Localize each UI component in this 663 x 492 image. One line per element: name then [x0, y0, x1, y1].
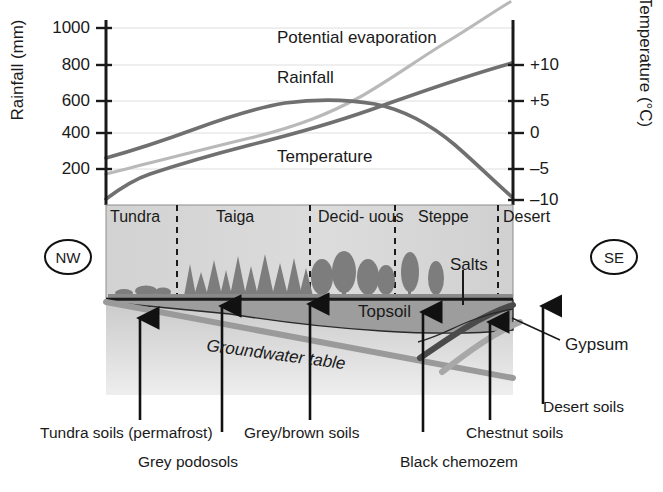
soil-label-chemozem: Black chemozem — [400, 453, 518, 471]
left-tick-600: 600 — [28, 91, 90, 111]
soil-label-chestnut: Chestnut soils — [466, 424, 563, 442]
left-tick-200: 200 — [28, 159, 90, 179]
rainfall-curve-label: Rainfall — [277, 68, 334, 88]
right-axis-title: Temperature (°C) — [635, 0, 655, 147]
left-axis-title: Rainfall (mm) — [8, 0, 28, 150]
right-tick-plus5: +5 — [530, 91, 549, 111]
right-tick-minus10: –10 — [530, 190, 558, 210]
salts-label: Salts — [450, 256, 488, 274]
soil-label-tundra: Tundra soils (permafrost) — [40, 424, 213, 442]
axis-ticks — [96, 28, 524, 200]
gypsum-label: Gypsum — [565, 336, 628, 354]
biome-label-tundra: Tundra — [110, 208, 160, 226]
left-tick-1000: 1000 — [28, 18, 90, 38]
compass-se: SE — [590, 239, 638, 275]
biome-label-deciduous: Decid- uous — [318, 208, 403, 226]
left-tick-800: 800 — [28, 55, 90, 75]
temperature-curve-label: Temperature — [277, 147, 372, 167]
biome-label-steppe: Steppe — [418, 208, 469, 226]
topsoil-label: Topsoil — [358, 303, 411, 321]
biome-label-taiga: Taiga — [216, 208, 254, 226]
compass-nw: NW — [44, 239, 92, 275]
left-tick-400: 400 — [28, 123, 90, 143]
biome-label-desert: Desert — [503, 208, 550, 226]
soil-label-desert: Desert soils — [543, 398, 624, 416]
transect-diagram: Rainfall (mm) Temperature (°C) 1000 800 … — [0, 0, 663, 492]
evaporation-curve-label: Potential evaporation — [277, 28, 437, 48]
soil-label-podosols: Grey podosols — [138, 453, 238, 471]
right-tick-minus5: –5 — [530, 159, 549, 179]
right-tick-plus10: +10 — [530, 55, 559, 75]
soil-label-greybrown: Grey/brown soils — [244, 424, 359, 442]
right-tick-zero: 0 — [530, 123, 539, 143]
gypsum-leader — [512, 318, 560, 340]
